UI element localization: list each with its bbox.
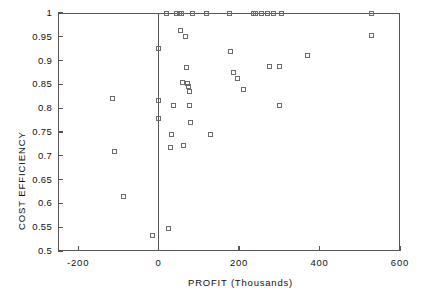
data-point (259, 11, 264, 16)
data-point (265, 11, 270, 16)
y-tick-mark (58, 203, 63, 204)
y-tick-label: 0.95 (8, 31, 52, 42)
data-point (188, 120, 193, 125)
data-point (271, 11, 276, 16)
y-tick-mark (58, 179, 63, 180)
y-tick-mark (58, 12, 63, 13)
data-point (168, 145, 173, 150)
x-tick-label: 400 (295, 257, 345, 268)
data-point (150, 233, 155, 238)
data-point (181, 143, 186, 148)
data-point (190, 11, 195, 16)
x-tick-mark (158, 246, 159, 251)
data-point (156, 46, 161, 51)
data-point (267, 64, 272, 69)
data-point (277, 64, 282, 69)
y-tick-label: 0.65 (8, 174, 52, 185)
y-tick-label: 0.75 (8, 126, 52, 137)
y-tick-mark (58, 84, 63, 85)
x-tick-mark (238, 246, 239, 251)
data-point (369, 11, 374, 16)
x-tick-label: -200 (53, 257, 103, 268)
data-point (369, 33, 374, 38)
data-point (112, 149, 117, 154)
data-point (121, 194, 126, 199)
y-tick-mark (58, 36, 63, 37)
data-point (279, 11, 284, 16)
data-point (166, 226, 171, 231)
y-tick-mark (58, 60, 63, 61)
x-tick-mark (319, 246, 320, 251)
x-tick-mark (78, 246, 79, 251)
data-point (231, 70, 236, 75)
y-tick-label: 0.8 (8, 102, 52, 113)
data-point (171, 103, 176, 108)
y-tick-label: 0.6 (8, 197, 52, 208)
data-point (227, 11, 232, 16)
data-point (187, 103, 192, 108)
data-point (179, 11, 184, 16)
y-tick-label: 0.85 (8, 78, 52, 89)
data-point (277, 103, 282, 108)
x-tick-label: 600 (375, 257, 425, 268)
data-point (187, 89, 192, 94)
data-point (235, 76, 240, 81)
data-point (156, 116, 161, 121)
y-tick-mark (58, 250, 63, 251)
data-point (241, 87, 246, 92)
x-tick-label: 0 (134, 257, 184, 268)
data-point (169, 132, 174, 137)
y-tick-label: 0.5 (8, 245, 52, 256)
scatter-plot-figure: COST EFFICIENCY PROFIT (Thousands) 0.50.… (0, 0, 435, 307)
data-point (178, 28, 183, 33)
data-point (204, 11, 209, 16)
y-tick-mark (58, 227, 63, 228)
y-tick-label: 0.9 (8, 55, 52, 66)
data-point (184, 65, 189, 70)
y-tick-label: 1 (8, 7, 52, 18)
x-axis-title: PROFIT (Thousands) (188, 277, 293, 288)
data-point (110, 96, 115, 101)
data-point (156, 98, 161, 103)
data-point (208, 132, 213, 137)
x-tick-mark (399, 246, 400, 251)
x-tick-label: 200 (214, 257, 264, 268)
data-point (164, 11, 169, 16)
y-tick-label: 0.55 (8, 221, 52, 232)
data-point (183, 34, 188, 39)
y-tick-label: 0.7 (8, 150, 52, 161)
y-tick-mark (58, 108, 63, 109)
y-tick-mark (58, 155, 63, 156)
data-point (228, 49, 233, 54)
y-tick-mark (58, 131, 63, 132)
data-point (305, 53, 310, 58)
